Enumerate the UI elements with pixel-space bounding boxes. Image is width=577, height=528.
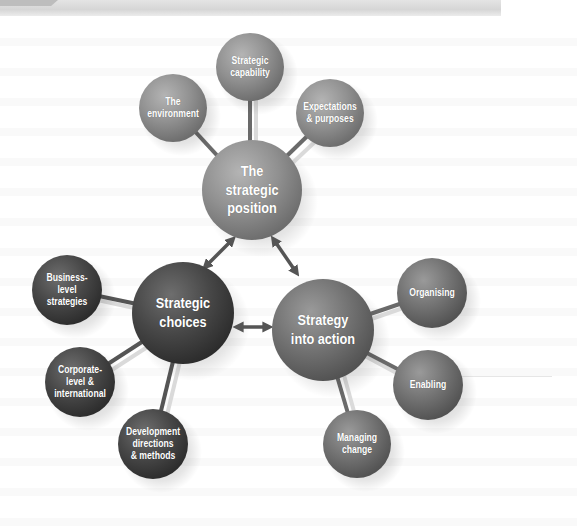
label-development-directions: Development directions & methods: [119, 409, 188, 479]
hub-label-strategy-into-action: Strategy into action: [281, 279, 365, 381]
label-environment: The environment: [142, 74, 204, 142]
label-strategic-capability: Strategic capability: [219, 33, 281, 101]
label-organising: Organising: [401, 258, 463, 328]
label-corporate-level: Corporate- level & international: [47, 347, 113, 417]
label-managing-change: Managing change: [326, 410, 388, 478]
hub-label-strategic-position: The strategic position: [211, 140, 293, 240]
hub-label-strategic-choices: Strategic choices: [141, 262, 225, 364]
label-enabling: Enabling: [397, 350, 459, 420]
label-business-level: Business- level strategies: [36, 255, 98, 325]
label-expectations-purposes: Expectations & purposes: [297, 79, 363, 147]
